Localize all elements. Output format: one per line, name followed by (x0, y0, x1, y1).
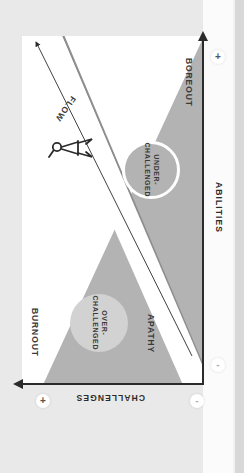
region-label-boreout: BOREOUT (184, 58, 194, 107)
abilities-axis-arrowhead-icon (198, 31, 208, 41)
page-margin-band (203, 0, 233, 473)
bubble-under-challenged: UNDER- CHALLENGED (122, 141, 180, 199)
region-label-burnout: BURNOUT (30, 308, 40, 357)
diagram-page: FLOW BOREOUT BURNOUT APATHY UNDER- CHALL… (0, 0, 244, 473)
challenges-axis-plus-badge: + (36, 394, 50, 408)
page-edge-shadow (235, 0, 244, 473)
challenges-axis-title: CHALLENGES (75, 393, 145, 403)
bubble-over-challenged-label: OVER- CHALLENGED (90, 296, 108, 351)
abilities-axis-line (202, 40, 204, 384)
bubble-over-challenged: OVER- CHALLENGED (70, 294, 128, 352)
challenges-axis-minus-badge: - (190, 394, 204, 408)
bubble-under-challenged-label: UNDER- CHALLENGED (142, 143, 160, 198)
plot-area: FLOW BOREOUT BURNOUT APATHY UNDER- CHALL… (22, 36, 204, 383)
region-label-apathy: APATHY (146, 314, 156, 353)
abilities-axis-plus-badge: + (211, 50, 225, 64)
abilities-axis-minus-badge: - (211, 358, 225, 372)
surfer-figure-icon (48, 128, 100, 168)
challenges-axis-line (22, 383, 204, 385)
challenges-axis-arrowhead-icon (13, 379, 23, 389)
abilities-axis-title: ABILITIES (214, 182, 224, 233)
